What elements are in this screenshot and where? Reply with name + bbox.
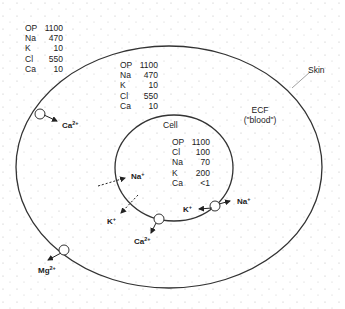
ion-label-na-in: Na+: [131, 171, 144, 181]
skin-label: Skin: [308, 65, 325, 75]
table-row: K200: [172, 168, 210, 178]
ion-label-k-out: K+: [107, 216, 116, 226]
table-row: Ca10: [120, 101, 158, 111]
ecf-label: ECF ("blood"): [240, 105, 280, 125]
osmotic-diagram: OP1100 Na470 K10 Cl550 Ca10 OP1100 Na470…: [0, 0, 345, 309]
table-row: Na470: [25, 33, 63, 43]
table-row: OP1100: [120, 60, 158, 70]
table-row: K10: [120, 80, 158, 90]
ion-label-na-pump: Na+: [237, 196, 250, 206]
table-row: Cl100: [172, 147, 210, 157]
ion-label-k-pump: K+: [183, 204, 192, 214]
outside-concentration-table: OP1100 Na470 K10 Cl550 Ca10: [25, 23, 63, 74]
table-row: Na470: [120, 70, 158, 80]
table-row: Na70: [172, 157, 210, 167]
cell-concentration-table: OP1100 Cl100 Na70 K200 Ca<1: [172, 137, 210, 188]
ion-label-mg-skin: Mg2+: [38, 265, 56, 275]
cell-ca-pump-icon: [154, 214, 164, 224]
table-row: Cl550: [25, 54, 63, 64]
ion-label-ca-skin: Ca2+: [62, 120, 79, 130]
cell-label: Cell: [163, 120, 178, 130]
table-row: OP1100: [25, 23, 63, 33]
table-row: Cl550: [120, 91, 158, 101]
skin-ca-channel-icon: [35, 109, 45, 119]
table-row: Ca10: [25, 64, 63, 74]
ion-label-ca-cell: Ca2+: [134, 236, 151, 246]
table-row: OP1100: [172, 137, 210, 147]
ecf-concentration-table: OP1100 Na470 K10 Cl550 Ca10: [120, 60, 158, 111]
na-k-pump-icon: [210, 201, 220, 211]
table-row: Ca<1: [172, 178, 210, 188]
table-row: K10: [25, 43, 63, 53]
